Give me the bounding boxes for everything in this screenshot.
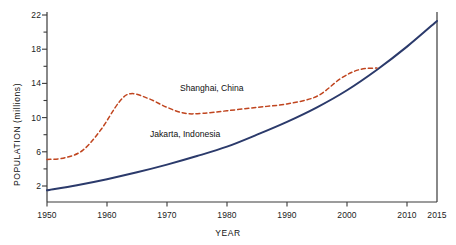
x-tick-label: 1970 [151, 210, 183, 220]
x-tick-label: 1960 [91, 210, 123, 220]
series-line-shanghai [47, 68, 377, 159]
x-tick-label: 2015 [421, 210, 453, 220]
chart-plot-area [0, 0, 456, 245]
y-tick-label: 22 [19, 10, 41, 20]
y-axis-title: POPULATION (millions) [12, 83, 22, 186]
y-tick-label: 2 [19, 181, 41, 191]
x-tick-label: 1990 [271, 210, 303, 220]
x-axis-title: YEAR [0, 228, 456, 238]
series-label-jakarta: Jakarta, Indonesia [150, 129, 220, 139]
chart-series [47, 21, 437, 190]
x-tick-label: 2010 [391, 210, 423, 220]
y-tick-label: 14 [19, 78, 41, 88]
y-tick-label: 10 [19, 113, 41, 123]
y-tick-label: 18 [19, 44, 41, 54]
series-label-shanghai: Shanghai, China [180, 83, 244, 93]
series-line-jakarta [47, 21, 437, 190]
x-tick-label: 1950 [31, 210, 63, 220]
x-tick-label: 2000 [331, 210, 363, 220]
x-tick-label: 1980 [211, 210, 243, 220]
y-tick-label: 6 [19, 147, 41, 157]
population-line-chart: 2610141822 19501960197019801990200020102… [0, 0, 456, 245]
